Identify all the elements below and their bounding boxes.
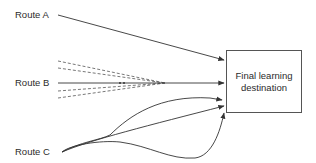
route-b-dashed-3 <box>58 83 165 91</box>
route-a-label: Route A <box>15 10 49 20</box>
route-b-dashed-4 <box>58 83 165 98</box>
route-c-label: Route C <box>15 147 50 157</box>
route-b-dashed-1 <box>58 61 165 83</box>
route-b-dashed-2 <box>58 68 165 83</box>
final-destination-label: Final learning destination <box>228 70 300 94</box>
route-a-path <box>58 15 224 60</box>
route-c-lower-loop <box>62 113 224 158</box>
final-destination-box: Final learning destination <box>226 50 302 113</box>
routes-diagram: Route A Route B Route C Final learning d… <box>0 0 316 163</box>
route-c-path <box>62 98 224 158</box>
route-b-label: Route B <box>15 78 49 88</box>
route-b-path <box>58 61 224 98</box>
route-c-direct <box>62 106 224 152</box>
